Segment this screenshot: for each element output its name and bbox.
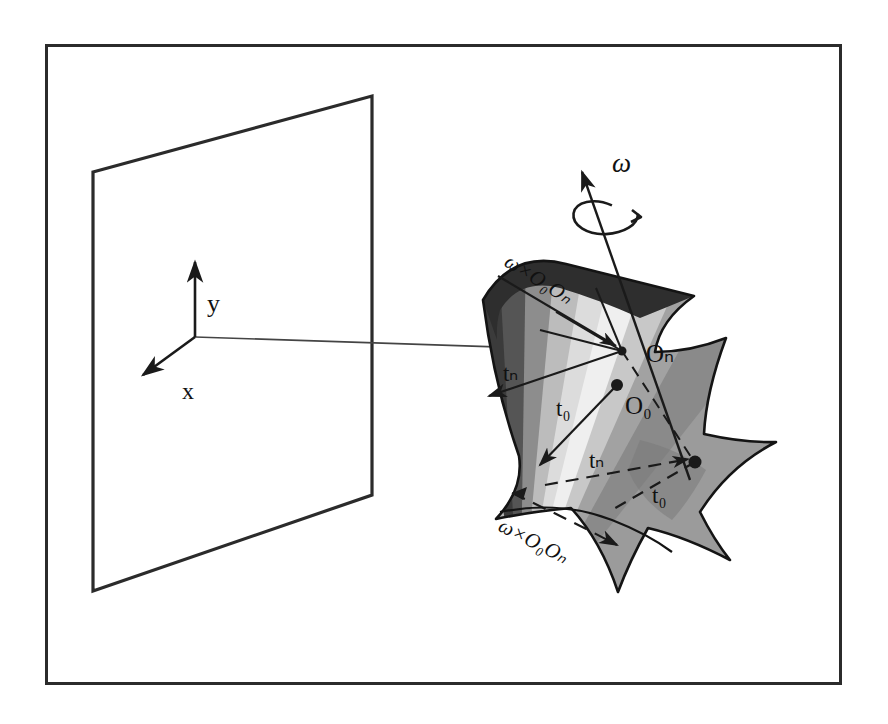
diagram-canvas: y x	[0, 0, 888, 724]
image-plane	[93, 96, 372, 591]
tn-left-label: tₙ	[503, 361, 518, 386]
omega-label: ω	[612, 148, 631, 178]
rotation-curl-icon	[572, 197, 641, 238]
omega-cross-lower-label: ω×O₀Oₙ	[495, 513, 573, 569]
t0-left-label: t₀	[556, 396, 570, 421]
x-axis-label: x	[182, 378, 194, 404]
y-axis-label: y	[207, 289, 220, 318]
surface-shading-bands	[470, 243, 840, 640]
figure-root: y x	[0, 0, 888, 724]
curved-surface-patch	[470, 243, 840, 640]
tn-mid-label: tₙ	[589, 448, 604, 473]
point-O0-label: O₀	[625, 392, 652, 419]
t0-right-label: t₀	[652, 483, 666, 508]
point-On-label: Oₙ	[646, 340, 674, 367]
